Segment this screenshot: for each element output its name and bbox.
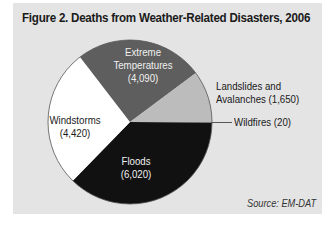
- windstorms-value: (4,420): [44, 127, 106, 140]
- floods-value: (6,020): [110, 168, 163, 181]
- label-extreme-temperatures: Extreme Temperatures (4,090): [112, 46, 174, 85]
- floods-name: Floods: [110, 155, 163, 168]
- extreme-temperatures-name-2: Temperatures: [112, 59, 174, 72]
- extreme-temperatures-value: (4,090): [112, 72, 174, 85]
- landslides-name: Landslides and: [216, 80, 299, 93]
- label-windstorms: Windstorms (4,420): [44, 114, 106, 140]
- label-floods: Floods (6,020): [110, 155, 163, 181]
- label-landslides: Landslides and Avalanches (1,650): [216, 80, 299, 106]
- landslides-value: Avalanches (1,650): [216, 93, 299, 106]
- source-note: Source: EM-DAT: [247, 197, 316, 209]
- label-wildfires: Wildfires (20): [234, 116, 291, 129]
- extreme-temperatures-name: Extreme: [112, 46, 174, 59]
- windstorms-name: Windstorms: [44, 114, 106, 127]
